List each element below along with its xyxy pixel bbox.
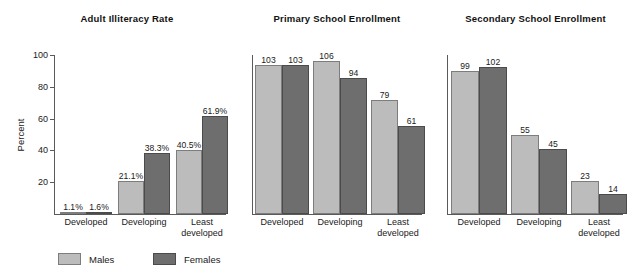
bar-females-developing-0[interactable]: 38.3%	[144, 153, 170, 214]
x-category-label-developing-2: Developing	[516, 217, 561, 228]
bar-value-females-developing-1: 94	[349, 68, 359, 78]
bar-females-developing-1[interactable]: 94	[340, 78, 367, 214]
legend-label-females: Females	[184, 254, 220, 265]
bar-value-females-least-developed-0: 61.9%	[203, 106, 227, 116]
x-axis-line-2	[447, 214, 623, 215]
chart-title-0: Adult Illiteracy Rate	[0, 13, 232, 24]
bar-males-least-developed-1[interactable]: 79	[371, 100, 398, 214]
x-category-label-least-developed-1: Least developed	[377, 217, 419, 239]
bar-value-males-developed-1: 103	[261, 55, 275, 65]
y-tick-80	[50, 87, 54, 88]
bar-group-least-developed-1: 79 61	[371, 55, 425, 214]
bar-males-developing-2[interactable]: 55	[511, 135, 539, 215]
plot-area-1: 103 103 106 94 79	[252, 55, 422, 214]
bar-males-least-developed-0[interactable]: 40.5%	[176, 150, 202, 214]
bar-value-females-least-developed-2: 14	[608, 184, 618, 194]
y-tick-label-60: 60	[38, 114, 48, 124]
bar-group-developed-0: 1.1% 1.6%	[60, 55, 112, 214]
bar-males-least-developed-2[interactable]: 23	[571, 181, 599, 214]
bar-group-developing-0: 21.1% 38.3%	[118, 55, 170, 214]
x-category-label-developed-2: Developed	[457, 217, 500, 228]
bar-value-males-developing-1: 106	[319, 51, 333, 61]
figure-multi-panel-bar-charts: Adult Illiteracy Rate Percent 100 80 60 …	[0, 0, 629, 277]
chart-panel-adult-illiteracy-rate: Adult Illiteracy Rate Percent 100 80 60 …	[0, 0, 232, 250]
bar-value-males-least-developed-2: 23	[580, 171, 590, 181]
bar-value-females-developed-0: 1.6%	[89, 202, 109, 212]
bar-group-developing-2: 55 45	[511, 55, 567, 214]
bar-females-least-developed-0[interactable]: 61.9%	[202, 116, 228, 214]
chart-title-2: Secondary School Enrollment	[428, 13, 629, 24]
legend-swatch-females-icon	[153, 253, 176, 265]
x-axis-line-0	[54, 214, 226, 215]
bar-females-developed-1[interactable]: 103	[282, 65, 309, 214]
y-tick-label-100: 100	[33, 50, 48, 60]
bar-value-males-developing-2: 55	[520, 125, 530, 135]
bar-value-females-developing-2: 45	[548, 139, 558, 149]
legend-item-males[interactable]: Males	[58, 253, 114, 265]
bar-group-least-developed-0: 40.5% 61.9%	[176, 55, 228, 214]
bar-males-developed-1[interactable]: 103	[255, 65, 282, 214]
legend-label-males: Males	[89, 254, 114, 265]
bar-value-males-developed-2: 99	[460, 61, 470, 71]
y-axis-label-percent: Percent	[15, 118, 26, 151]
bar-group-developed-1: 103 103	[255, 55, 309, 214]
bar-value-females-least-developed-1: 61	[407, 116, 417, 126]
bar-group-developing-1: 106 94	[313, 55, 367, 214]
legend-item-females[interactable]: Females	[153, 253, 220, 265]
bar-males-developing-1[interactable]: 106	[313, 61, 340, 214]
x-category-label-developing-0: Developing	[121, 217, 166, 228]
x-category-label-least-developed-2: Least developed	[578, 217, 620, 239]
bar-males-developed-2[interactable]: 99	[451, 71, 479, 214]
bar-value-females-developing-0: 38.3%	[145, 143, 169, 153]
bar-group-developed-2: 99 102	[451, 55, 507, 214]
x-axis-line-1	[252, 214, 422, 215]
x-category-label-developing-1: Developing	[317, 217, 362, 228]
bar-females-least-developed-1[interactable]: 61	[398, 126, 425, 214]
y-tick-60	[50, 119, 54, 120]
chart-panel-secondary-school-enrollment: Secondary School Enrollment 99 102 55 45	[428, 0, 629, 250]
y-tick-label-40: 40	[38, 145, 48, 155]
bar-males-developing-0[interactable]: 21.1%	[118, 181, 144, 215]
x-category-label-least-developed-0: Least developed	[181, 217, 223, 239]
y-axis-line-0	[54, 55, 55, 214]
bar-females-developing-2[interactable]: 45	[539, 149, 567, 214]
y-tick-20	[50, 182, 54, 183]
y-axis-line-1	[252, 55, 253, 214]
chart-panel-primary-school-enrollment: Primary School Enrollment 103 103 106 94	[232, 0, 428, 250]
bar-value-males-least-developed-1: 79	[380, 90, 390, 100]
bar-females-least-developed-2[interactable]: 14	[599, 194, 627, 214]
bar-value-females-developed-1: 103	[288, 55, 302, 65]
bar-females-developed-2[interactable]: 102	[479, 67, 507, 214]
bar-group-least-developed-2: 23 14	[571, 55, 627, 214]
bar-males-developed-0[interactable]: 1.1%	[60, 212, 86, 214]
y-tick-40	[50, 150, 54, 151]
y-tick-label-80: 80	[38, 82, 48, 92]
y-tick-label-20: 20	[38, 177, 48, 187]
x-category-label-developed-0: Developed	[64, 217, 107, 228]
x-category-label-developed-1: Developed	[260, 217, 303, 228]
y-tick-100	[50, 55, 54, 56]
legend-swatch-males-icon	[58, 253, 81, 265]
chart-legend: Males Females	[0, 249, 629, 277]
bar-value-males-developed-0: 1.1%	[63, 202, 83, 212]
bar-value-females-developed-2: 102	[486, 57, 500, 67]
y-axis-line-2	[447, 55, 448, 214]
bar-value-males-developing-0: 21.1%	[119, 171, 143, 181]
chart-title-1: Primary School Enrollment	[232, 13, 428, 24]
bar-value-males-least-developed-0: 40.5%	[177, 140, 201, 150]
bar-females-developed-0[interactable]: 1.6%	[86, 212, 112, 215]
plot-area-0: Percent 100 80 60 40 20 1.1% 1.6%	[54, 55, 226, 214]
plot-area-2: 99 102 55 45 23	[447, 55, 623, 214]
